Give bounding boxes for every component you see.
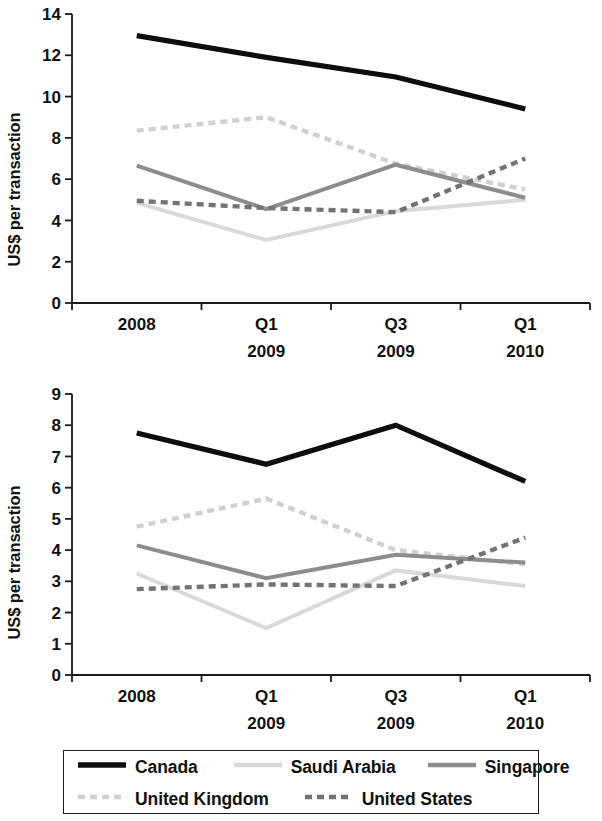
x-tick-label: Q3 (384, 315, 407, 334)
legend-label: United Kingdom (135, 789, 269, 810)
series-line-united-kingdom (137, 117, 526, 189)
series-line-united-kingdom (137, 499, 526, 565)
series-line-canada (137, 36, 526, 109)
y-tick-label: 6 (52, 170, 61, 189)
line-chart-bottom: 01234567892008Q12009Q32009Q12010 (0, 378, 602, 746)
legend-swatch-saudi-arabia (232, 758, 284, 776)
legend-label: United States (362, 789, 473, 810)
chart-page: US$ per transaction 024681012142008Q1200… (0, 0, 602, 821)
y-tick-label: 9 (52, 385, 61, 404)
x-tick-label: Q1 (255, 315, 278, 334)
y-tick-label: 7 (52, 448, 61, 467)
x-tick-label: 2009 (377, 342, 415, 361)
plot-area-top: 024681012142008Q12009Q32009Q12010 (0, 0, 602, 378)
y-tick-label: 4 (52, 212, 62, 231)
y-tick-label: 2 (52, 604, 61, 623)
y-tick-label: 6 (52, 479, 61, 498)
legend-label: Singapore (485, 757, 570, 778)
legend-item-singapore: Singapore (426, 757, 570, 778)
y-tick-label: 5 (52, 510, 61, 529)
legend-row-1: CanadaSaudi ArabiaSingapore (64, 751, 538, 783)
series-line-canada (137, 425, 526, 481)
chart-panel-top: US$ per transaction 024681012142008Q1200… (0, 0, 602, 378)
line-chart-top: 024681012142008Q12009Q32009Q12010 (0, 0, 602, 378)
y-tick-label: 0 (52, 294, 61, 313)
y-tick-label: 10 (42, 88, 61, 107)
y-tick-label: 3 (52, 572, 61, 591)
legend-label: Saudi Arabia (291, 757, 396, 778)
x-tick-label: 2009 (247, 714, 285, 733)
series-line-saudi-arabia (137, 200, 526, 240)
y-tick-label: 8 (52, 129, 61, 148)
legend-swatch-united-kingdom (76, 790, 128, 808)
x-tick-label: 2010 (506, 342, 544, 361)
legend-item-united-kingdom: United Kingdom (76, 789, 269, 810)
y-tick-label: 4 (52, 541, 62, 560)
y-tick-label: 8 (52, 416, 61, 435)
x-tick-label: Q1 (514, 315, 537, 334)
x-tick-label: 2008 (118, 687, 156, 706)
series-line-saudi-arabia (137, 570, 526, 628)
legend-swatch-singapore (426, 758, 478, 776)
y-tick-label: 14 (42, 5, 61, 24)
chart-panel-bottom: US$ per transaction 01234567892008Q12009… (0, 378, 602, 746)
series-line-singapore (137, 165, 526, 209)
legend-swatch-canada (76, 758, 128, 776)
legend-swatch-united-states (303, 790, 355, 808)
x-tick-label: Q3 (384, 687, 407, 706)
legend-item-united-states: United States (303, 789, 473, 810)
y-tick-label: 12 (42, 46, 61, 65)
x-tick-label: 2009 (247, 342, 285, 361)
legend-label: Canada (135, 757, 198, 778)
legend-item-canada: Canada (76, 757, 198, 778)
plot-area-bottom: 01234567892008Q12009Q32009Q12010 (0, 378, 602, 746)
x-tick-label: Q1 (514, 687, 537, 706)
series-line-united-states (137, 538, 526, 590)
series-line-singapore (137, 545, 526, 578)
legend-row-2: United KingdomUnited States (64, 783, 538, 815)
x-tick-label: 2008 (118, 315, 156, 334)
y-tick-label: 2 (52, 253, 61, 272)
x-tick-label: 2009 (377, 714, 415, 733)
legend-item-saudi-arabia: Saudi Arabia (232, 757, 396, 778)
y-tick-label: 0 (52, 666, 61, 685)
x-tick-label: 2010 (506, 714, 544, 733)
chart-legend: CanadaSaudi ArabiaSingapore United Kingd… (63, 750, 539, 814)
x-tick-label: Q1 (255, 687, 278, 706)
y-tick-label: 1 (52, 635, 61, 654)
